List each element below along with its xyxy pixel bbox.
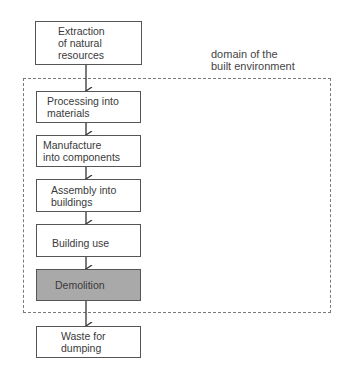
step-waste: Waste for dumping	[36, 326, 141, 358]
step-label: Waste for dumping	[37, 330, 106, 354]
step-label: Demolition	[37, 279, 105, 291]
step-label: Processing into materials	[37, 95, 119, 119]
step-assembly: Assembly into buildings	[36, 179, 141, 212]
step-label: Extraction of natural resources	[36, 25, 105, 61]
step-building-use: Building use	[36, 224, 141, 257]
step-manufacture: Manufacture into components	[36, 135, 141, 167]
step-label: Assembly into buildings	[37, 184, 116, 208]
step-demolition: Demolition	[36, 269, 141, 301]
step-label: Manufacture into components	[37, 139, 120, 163]
step-label: Building use	[37, 233, 109, 249]
step-extraction: Extraction of natural resources	[35, 21, 142, 65]
step-processing: Processing into materials	[36, 91, 141, 123]
